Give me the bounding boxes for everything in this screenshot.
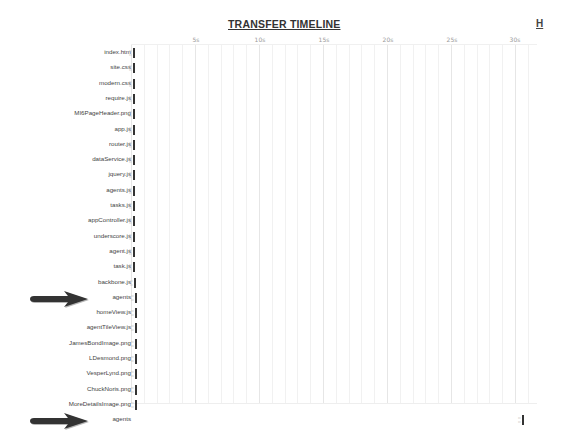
resource-name: router.js [109, 140, 131, 147]
status-marker-icon: ▫▫ [131, 324, 134, 332]
timeline-row[interactable]: JamesBondImage.png▫▫ [0, 337, 568, 352]
status-marker-icon: ▫▫ [129, 217, 132, 225]
transfer-bar[interactable] [133, 262, 135, 272]
transfer-bar[interactable] [135, 354, 137, 364]
timeline-row[interactable]: jquery.js▫▫ [0, 168, 568, 183]
status-marker-icon: ▫▫ [129, 187, 132, 195]
status-marker-icon: ▫▫ [129, 263, 132, 271]
transfer-bar[interactable] [133, 48, 135, 58]
status-marker-icon: ▫▫ [129, 126, 132, 134]
resource-name: jquery.js [108, 170, 131, 177]
resource-name: JamesBondImage.png [69, 339, 131, 346]
timeline-row[interactable]: homeView.js▫▫ [0, 306, 568, 321]
status-marker-icon: ▫▫ [131, 340, 134, 348]
status-marker-icon: ▫▫ [129, 248, 132, 256]
status-marker-icon: ▫▫ [131, 309, 134, 317]
transfer-bar[interactable] [135, 323, 137, 333]
transfer-bar[interactable] [135, 308, 137, 318]
transfer-bar[interactable] [133, 186, 135, 196]
status-marker-icon: ▫▫ [131, 370, 134, 378]
resource-name: VesperLynd.png [87, 369, 132, 376]
timeline-row[interactable]: agentTileView.js▫▫ [0, 321, 568, 336]
transfer-bar[interactable] [134, 278, 136, 288]
timeline-row[interactable]: modern.css▫▫ [0, 77, 568, 92]
timeline-row[interactable]: tasks.js▫▫ [0, 199, 568, 214]
transfer-bar[interactable] [133, 216, 135, 226]
tick-label: 25s [447, 36, 458, 43]
transfer-bar[interactable] [135, 369, 137, 379]
status-marker-icon: ▫▫ [129, 171, 132, 179]
resource-name: ChuckNoris.png [87, 385, 131, 392]
timeline-row[interactable]: agents▫▫ [0, 413, 568, 428]
transfer-bar[interactable] [133, 247, 135, 257]
status-marker-icon: ▫▫ [131, 401, 134, 409]
tick-label: 20s [383, 36, 394, 43]
status-marker-icon: ▫▫ [131, 355, 134, 363]
resource-name: require.js [106, 94, 131, 101]
timeline-row[interactable]: task.js▫▫ [0, 260, 568, 275]
status-marker-icon: ▫▫ [129, 202, 132, 210]
timeline-row[interactable]: underscore.js▫▫ [0, 230, 568, 245]
transfer-bar[interactable] [133, 170, 135, 180]
resource-name: MoreDetailsImage.png [69, 400, 131, 407]
transfer-bar[interactable] [133, 232, 135, 242]
tick-label: 10s [255, 36, 266, 43]
resource-name: agent.js [109, 247, 131, 254]
transfer-bar[interactable] [133, 125, 135, 135]
resource-name: agents [112, 293, 131, 300]
transfer-bar[interactable] [135, 400, 137, 410]
transfer-bar[interactable] [133, 109, 135, 119]
transfer-bar[interactable] [133, 140, 135, 150]
timeline-row[interactable]: agent.js▫▫ [0, 245, 568, 260]
timeline-row[interactable]: site.css▫▫ [0, 61, 568, 76]
resource-name: dataService.js [92, 155, 131, 162]
transfer-bar[interactable] [135, 385, 137, 395]
arrow-right-icon [28, 412, 90, 430]
resource-name: index.htm [104, 48, 131, 55]
header-link[interactable]: H [536, 18, 543, 29]
status-marker-icon: ▫▫ [129, 80, 132, 88]
status-marker-icon: ▫▫ [129, 64, 132, 72]
status-marker-icon: ▫▫ [131, 294, 134, 302]
transfer-bar[interactable] [135, 339, 137, 349]
timeline-row[interactable]: require.js▫▫ [0, 92, 568, 107]
timeline-row[interactable]: appController.js▫▫ [0, 214, 568, 229]
timeline-row[interactable]: app.js▫▫ [0, 123, 568, 138]
resource-name: agents [112, 415, 131, 422]
timeline-row[interactable]: index.htm▫▫ [0, 46, 568, 61]
status-marker-icon: ▫▫ [518, 416, 521, 424]
status-marker-icon: ▫▫ [131, 386, 134, 394]
resource-name: tasks.js [110, 201, 131, 208]
timeline-row[interactable]: MI6PageHeader.png▫▫ [0, 107, 568, 122]
timeline-row[interactable]: agents▫▫ [0, 291, 568, 306]
timeline-row[interactable]: ChuckNoris.png▫▫ [0, 383, 568, 398]
status-marker-icon: ▫▫ [129, 156, 132, 164]
status-marker-icon: ▫▫ [129, 141, 132, 149]
resource-name: modern.css [99, 79, 131, 86]
status-marker-icon: ▫▫ [129, 233, 132, 241]
tick-label: 30s [510, 36, 521, 43]
transfer-bar[interactable] [522, 415, 524, 425]
page-title: TRANSFER TIMELINE [228, 18, 340, 30]
transfer-bar[interactable] [133, 94, 135, 104]
timeline-row[interactable]: VesperLynd.png▫▫ [0, 367, 568, 382]
transfer-bar[interactable] [133, 155, 135, 165]
timeline-row[interactable]: LDesmond.png▫▫ [0, 352, 568, 367]
tick-label: 15s [319, 36, 330, 43]
resource-name: homeView.js [96, 308, 131, 315]
timeline-row[interactable]: router.js▫▫ [0, 138, 568, 153]
transfer-bar[interactable] [133, 79, 135, 89]
status-marker-icon: ▫▫ [129, 49, 132, 57]
resource-name: MI6PageHeader.png [74, 109, 131, 116]
transfer-bar[interactable] [133, 201, 135, 211]
timeline-row[interactable]: dataService.js▫▫ [0, 153, 568, 168]
transfer-bar[interactable] [135, 293, 137, 303]
resource-name: site.css [110, 63, 131, 70]
timeline-row[interactable]: agents.js▫▫ [0, 184, 568, 199]
timeline-row[interactable]: MoreDetailsImage.png▫▫ [0, 398, 568, 413]
timeline-row[interactable]: backbone.js▫▫ [0, 276, 568, 291]
resource-name: appController.js [88, 216, 131, 223]
status-marker-icon: ▫▫ [130, 279, 133, 287]
tick-label: 5s [193, 36, 200, 43]
transfer-bar[interactable] [133, 63, 135, 73]
